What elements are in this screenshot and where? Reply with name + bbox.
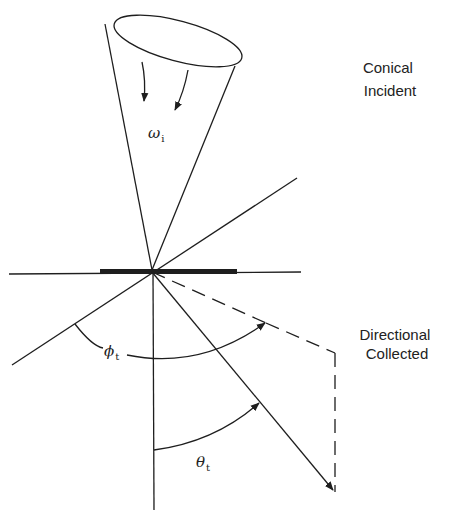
phi-label: ϕt xyxy=(104,342,119,362)
incident-cone xyxy=(105,5,247,270)
phi-angle-arc-right xyxy=(127,323,265,359)
theta-label: θt xyxy=(196,453,210,473)
directional-collected-label: Directional Collected xyxy=(359,326,434,362)
conical-incident-label: Conical Incident xyxy=(363,59,417,99)
azimuth-reference-line xyxy=(12,178,297,365)
omega-label: ωi xyxy=(148,124,164,144)
bidirectional-geometry-diagram: ωi ϕt θt Conical Incident Directional Co… xyxy=(0,0,457,520)
surface-normal-line xyxy=(153,272,154,510)
phi-angle-arc xyxy=(75,324,103,348)
theta-angle-arc xyxy=(154,403,259,450)
cone-rotation-arrows xyxy=(142,62,188,110)
sample-bar xyxy=(100,269,237,274)
collected-ray xyxy=(152,272,333,490)
